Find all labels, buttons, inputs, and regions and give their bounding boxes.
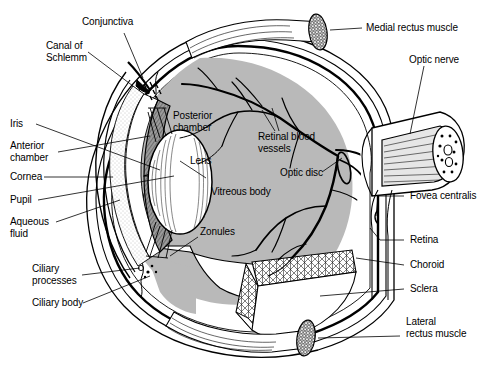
lens-body — [148, 130, 212, 234]
label-posterior-chamber: Posterior chamber — [173, 110, 212, 133]
label-ciliary-processes: Ciliary processes — [32, 263, 77, 286]
label-lateral-rectus-muscle: Lateral rectus muscle — [406, 316, 466, 339]
label-zonules: Zonules — [200, 226, 235, 238]
label-aqueous-fluid: Aqueous fluid — [10, 216, 49, 239]
leader-canal-of-schlemm — [88, 52, 133, 86]
label-retinal-blood-vessels: Retinal blood vessels — [258, 131, 315, 154]
label-choroid: Choroid — [410, 259, 444, 271]
label-anterior-chamber: Anterior chamber — [10, 140, 48, 163]
label-pupil: Pupil — [10, 194, 32, 206]
eye-anatomy-figure: Conjunctiva Canal of Schlemm Iris Anteri… — [0, 0, 484, 377]
label-ciliary-body: Ciliary body — [32, 297, 83, 309]
label-retina: Retina — [410, 234, 438, 246]
label-iris: Iris — [10, 118, 23, 130]
label-medial-rectus-muscle: Medial rectus muscle — [366, 22, 458, 34]
label-canal-of-schlemm: Canal of Schlemm — [46, 40, 87, 63]
leader-conjunctiva — [124, 33, 143, 78]
leader-medial-rectus — [330, 28, 362, 30]
label-lens: Lens — [190, 155, 211, 167]
label-cornea: Cornea — [10, 171, 42, 183]
label-sclera: Sclera — [410, 283, 438, 295]
label-conjunctiva: Conjunctiva — [82, 16, 133, 28]
label-vitreous-body: Vitreous body — [211, 186, 271, 198]
label-fovea-centralis: Fovea centralis — [410, 190, 476, 202]
label-optic-disc: Optic disc — [280, 167, 323, 179]
label-optic-nerve: Optic nerve — [409, 54, 459, 66]
